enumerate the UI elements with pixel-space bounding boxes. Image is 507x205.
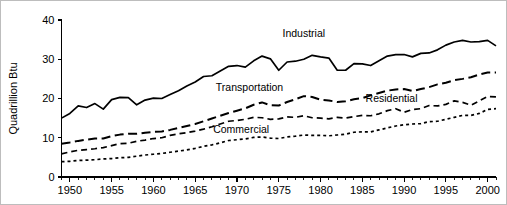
y-axis-title: Quadrillion Btu — [7, 62, 19, 134]
data-series-group — [62, 40, 497, 161]
x-tick-label: 1975 — [267, 184, 291, 196]
x-tick-label: 1995 — [434, 184, 458, 196]
series-label-commercial: Commercial — [213, 123, 269, 135]
x-tick-label: 1990 — [392, 184, 416, 196]
y-tick-label: 20 — [42, 92, 54, 104]
series-label-transportation: Transportation — [216, 81, 283, 93]
y-tick-label: 0 — [48, 171, 54, 183]
energy-consumption-line-chart: 010203040 195019551960196519701975198019… — [1, 1, 507, 205]
chart-figure: 010203040 195019551960196519701975198019… — [0, 0, 507, 205]
series-label-industrial: Industrial — [283, 27, 326, 39]
x-tick-label: 1980 — [308, 184, 332, 196]
x-tick-label: 1985 — [350, 184, 374, 196]
x-tick-label: 2000 — [475, 184, 499, 196]
x-axis-ticks — [62, 177, 497, 182]
series-annotation-labels: IndustrialTransportationResidentialComme… — [213, 27, 417, 135]
series-line-commercial — [62, 109, 497, 162]
x-tick-label: 1955 — [99, 184, 123, 196]
x-tick-label: 1965 — [183, 184, 207, 196]
y-axis-tick-labels: 010203040 — [42, 14, 54, 183]
x-tick-label: 1960 — [141, 184, 165, 196]
y-tick-label: 10 — [42, 132, 54, 144]
series-label-residential: Residential — [366, 92, 418, 104]
y-tick-label: 40 — [42, 14, 54, 26]
y-tick-label: 30 — [42, 53, 54, 65]
x-axis-tick-labels: 1950195519601965197019751980198519901995… — [58, 184, 500, 196]
x-tick-label: 1970 — [225, 184, 249, 196]
y-axis-ticks — [58, 20, 62, 177]
x-tick-label: 1950 — [58, 184, 82, 196]
